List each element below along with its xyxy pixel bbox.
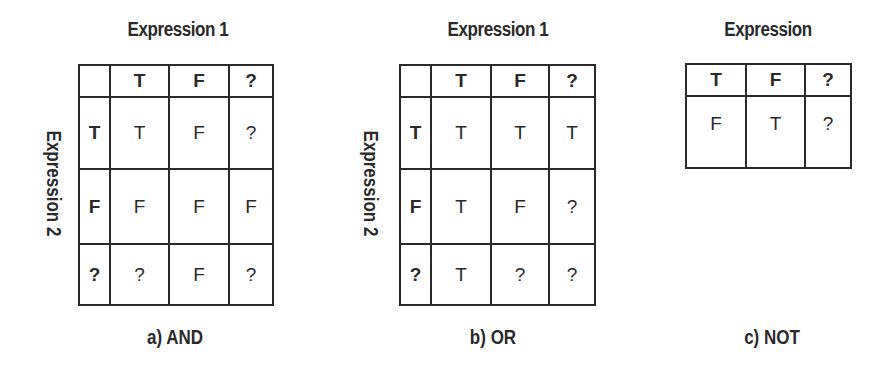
row-header: ? xyxy=(400,244,431,305)
not-column-label: Expression xyxy=(709,18,828,41)
result-cell: F xyxy=(110,169,169,244)
column-header: F xyxy=(746,64,805,96)
result-cell: F xyxy=(229,169,273,244)
column-header: ? xyxy=(549,65,595,97)
column-header: T xyxy=(431,65,491,97)
result-cell: T xyxy=(431,169,491,244)
result-cell: T xyxy=(491,97,549,169)
column-header: T xyxy=(110,65,169,97)
or-caption: b) OR xyxy=(451,326,536,349)
result-cell: ? xyxy=(549,244,595,305)
and-truth-table: T F ? T T F ? F F F F ? ? F ? xyxy=(78,64,274,306)
result-cell: F xyxy=(169,97,229,169)
row-header: F xyxy=(79,169,110,244)
or-truth-table: T F ? T T T T F T F ? ? T ? ? xyxy=(399,64,596,306)
corner-cell xyxy=(400,65,431,97)
result-cell: ? xyxy=(549,169,595,244)
and-column-label: Expression 1 xyxy=(110,18,246,41)
result-cell: T xyxy=(431,244,491,305)
not-caption: c) NOT xyxy=(730,326,815,349)
row-header: ? xyxy=(79,244,110,305)
column-header: F xyxy=(491,65,549,97)
result-cell: T xyxy=(549,97,595,169)
row-header: T xyxy=(400,97,431,169)
or-row-label: Expression 2 xyxy=(359,128,382,239)
result-cell: F xyxy=(169,169,229,244)
or-column-label: Expression 1 xyxy=(430,18,566,41)
result-cell: ? xyxy=(491,244,549,305)
column-header: T xyxy=(686,64,746,96)
column-header: ? xyxy=(805,64,851,96)
row-header: T xyxy=(79,97,110,169)
and-row-label: Expression 2 xyxy=(42,128,65,239)
result-cell: ? xyxy=(229,97,273,169)
result-cell: T xyxy=(746,96,805,168)
result-cell: ? xyxy=(110,244,169,305)
result-cell: F xyxy=(686,96,746,168)
column-header: F xyxy=(169,65,229,97)
result-cell: T xyxy=(110,97,169,169)
column-header: ? xyxy=(229,65,273,97)
result-cell: F xyxy=(491,169,549,244)
row-header: F xyxy=(400,169,431,244)
corner-cell xyxy=(79,65,110,97)
result-cell: T xyxy=(431,97,491,169)
not-truth-table: T F ? F T ? xyxy=(685,63,852,169)
result-cell: ? xyxy=(805,96,851,168)
result-cell: ? xyxy=(229,244,273,305)
result-cell: F xyxy=(169,244,229,305)
and-caption: a) AND xyxy=(128,326,222,349)
